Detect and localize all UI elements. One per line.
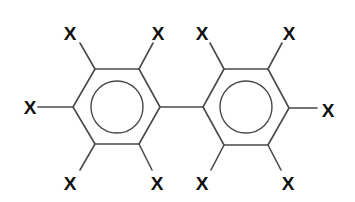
aromatic-circle xyxy=(91,81,143,133)
substituent-label-right: X xyxy=(322,100,335,121)
substituent-label-top-left: X xyxy=(64,23,77,44)
biphenyl-structure-diagram: XXXXXXXXXX xyxy=(0,0,355,202)
substituent-bond-bottom-right xyxy=(139,144,152,170)
substituent-bond-bottom-left xyxy=(211,145,224,170)
right-ring xyxy=(203,43,317,170)
left-ring xyxy=(38,43,160,170)
substituent-label-bottom-left: X xyxy=(64,173,77,194)
substituent-bond-top-right xyxy=(139,43,153,69)
substituent-label-bottom-left: X xyxy=(196,173,209,194)
substituent-bond-bottom-left xyxy=(80,144,95,170)
substituent-label-top-right: X xyxy=(152,23,165,44)
substituent-label-left: X xyxy=(24,97,37,118)
substituent-bond-top-right xyxy=(268,43,282,69)
substituent-bond-top-left xyxy=(80,43,95,69)
substituent-label-bottom-right: X xyxy=(282,173,295,194)
aromatic-circle xyxy=(220,81,272,133)
substituent-bond-bottom-right xyxy=(268,145,281,170)
bonds-layer xyxy=(38,43,317,170)
substituent-label-bottom-right: X xyxy=(151,173,164,194)
substituent-bond-top-left xyxy=(210,43,224,69)
substituent-label-top-right: X xyxy=(283,23,296,44)
substituent-label-top-left: X xyxy=(196,23,209,44)
